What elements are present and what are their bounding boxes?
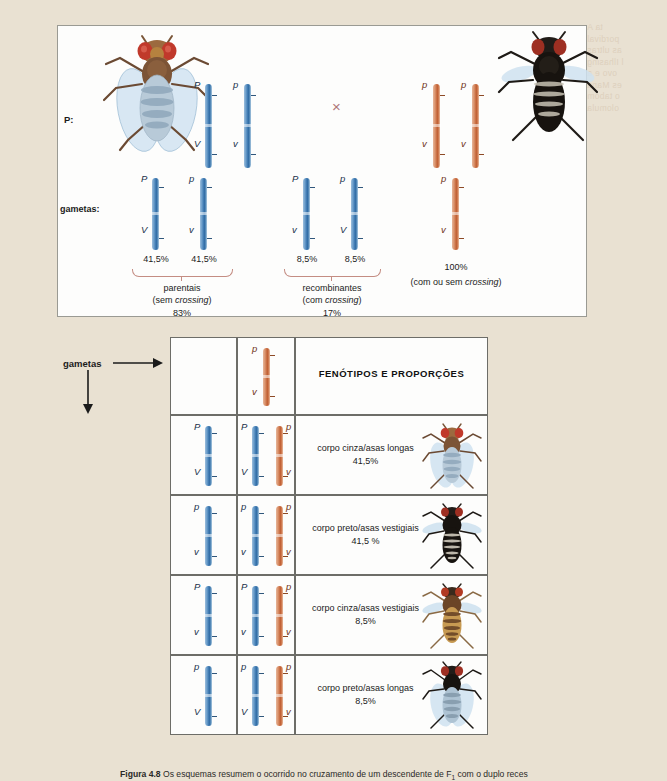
phenotype-cell: corpo preto/asas longas 8,5% [295,655,488,735]
gamete-percent: 8,5% [284,254,330,264]
allele-label: p [286,661,291,672]
row-gamete-cell: P v [170,575,237,655]
black-body-vestigial-wings-fly [421,503,483,569]
arrow-right-icon [113,356,163,370]
allele-label: p [252,343,257,354]
gamete-percent: 8,5% [332,254,378,264]
gray-body-long-wings-fly-parent [98,32,216,154]
group-name: recombinantes [268,282,396,294]
allele-label: v [241,626,246,637]
group-total-parentais: 83% [148,308,216,318]
phenotype-proportion: 41,5 % [296,535,435,548]
phenotype-description: corpo preto/asas longas [296,682,435,695]
black-body-long-wings-fly [421,661,483,729]
note-suffix: ) [499,277,502,287]
brace-stem [331,276,332,281]
allele-label: v [189,224,194,235]
brace-recombinantes [284,269,381,277]
note-italic: crossing [325,295,359,305]
group-note: (sem crossing) [118,294,246,306]
group-label-recombinantes: recombinantes (com crossing) [268,282,396,306]
allele-label: p [241,661,246,672]
phenotype-proportion: 8,5% [296,695,435,708]
allele-label: v [286,626,291,637]
allele-label: P [241,581,247,592]
table-header-gamete-cell: p v [237,337,295,415]
allele-label: P [194,79,200,90]
phenotype-proportion: 41,5% [296,455,435,468]
allele-label: V [194,466,200,477]
allele-label: v [252,386,257,397]
caption-text-end: com o duplo reces [455,769,528,779]
allele-label: V [194,706,200,717]
group-name: parentais [118,282,246,294]
allele-label: v [194,626,199,637]
cross-symbol: × [332,98,341,115]
allele-label: P [292,173,298,184]
allele-label: p [461,79,466,90]
phenotype-cell: corpo preto/asas vestigiais 41,5 % [295,495,488,575]
figure-number: Figura 4.8 [120,769,161,779]
table-header-title: FENÓTIPOS E PROPORÇÕES [296,368,487,379]
allele-label: V [241,706,247,717]
label-gametes: gametas: [60,204,100,214]
zygote-cell: p V p v [237,655,295,735]
caption-text: Os esquemas resumem o ocorrido no cruzam… [163,769,452,779]
note-italic: crossing [175,295,209,305]
parental-cross-panel: P: gametas: × [57,25,587,317]
allele-label: V [194,138,200,149]
allele-label: p [189,173,194,184]
allele-label: v [461,138,466,149]
row-gamete-cell: p v [170,495,237,575]
allele-label: V [241,466,247,477]
allele-label: p [233,79,238,90]
phenotype-cell: corpo cinza/asas vestigiais 8,5% [295,575,488,655]
allele-label: P [241,421,247,432]
allele-label: V [141,224,147,235]
table-header-corner [170,337,237,415]
zygote-cell: P v p v [237,575,295,655]
allele-label: v [241,546,246,557]
note-prefix: (com [302,295,325,305]
figure-caption: Figura 4.8 Os esquemas resumem o ocorrid… [120,769,660,781]
allele-label: v [286,706,291,717]
right-gamete-percent: 100% [418,262,494,272]
allele-label: v [194,546,199,557]
group-label-parentais: parentais (sem crossing) [118,282,246,306]
allele-label: v [292,224,297,235]
zygote-cell: P V p v [237,415,295,495]
black-body-vestigial-wings-fly-parent [495,30,603,142]
allele-label: p [194,501,199,512]
note-italic: crossing [465,277,499,287]
note-suffix: ) [209,295,212,305]
phenotype-cell: corpo cinza/asas longas 41,5% [295,415,488,495]
row-gamete-cell: p V [170,655,237,735]
label-parental-generation: P: [64,114,74,125]
table-header-phenotypes-cell: FENÓTIPOS E PROPORÇÕES [295,337,488,415]
gamete-percent: 41,5% [130,254,182,264]
phenotype-description: corpo cinza/asas vestigiais [296,602,435,615]
punnett-gametes-label-block: gametas [63,358,102,369]
allele-label: p [340,173,345,184]
allele-label: P [194,581,200,592]
allele-label: V [340,224,346,235]
note-prefix: (sem [152,295,175,305]
arrow-down-icon [81,370,95,414]
allele-label: p [286,421,291,432]
allele-label: p [286,581,291,592]
allele-label: p [194,661,199,672]
right-gamete-note: (com ou sem crossing) [388,276,524,288]
phenotype-description: corpo preto/asas vestigiais [296,522,435,535]
phenotype-proportion: 8,5% [296,615,435,628]
gamete-percent: 41,5% [178,254,230,264]
allele-label: p [422,79,427,90]
gametes-axis-label: gametas [63,358,102,369]
allele-label: p [441,173,446,184]
allele-label: v [441,224,446,235]
allele-label: v [286,546,291,557]
allele-label: P [141,173,147,184]
punnett-square-table: p v FENÓTIPOS E PROPORÇÕES P V P V p v [170,337,488,737]
note-suffix: ) [359,295,362,305]
brace-stem [181,276,182,281]
allele-label: P [194,421,200,432]
